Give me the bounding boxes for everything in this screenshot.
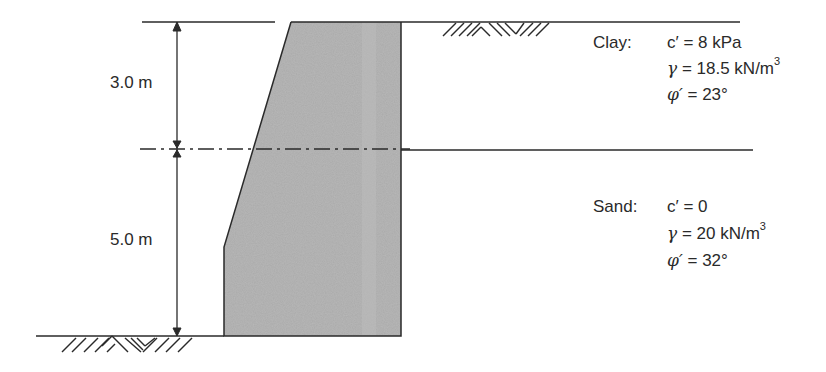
sand-label: Sand: (593, 197, 637, 217)
sand-unit-weight: γ = 20 kN/m3 (667, 223, 766, 244)
clay-cohesion: c′ = 8 kPa (667, 33, 742, 53)
retaining-wall-diagram (0, 0, 826, 372)
upper-depth-label: 3.0 m (110, 73, 153, 93)
sand-cohesion: c′ = 0 (667, 197, 708, 217)
lower-depth-label: 5.0 m (110, 230, 153, 250)
ground-hatch-icon (62, 336, 192, 352)
sand-friction-angle: φ′ = 32° (667, 250, 728, 271)
clay-friction-angle: φ′ = 23° (667, 84, 728, 105)
clay-unit-weight: γ = 18.5 kN/m3 (667, 58, 780, 79)
ground-hatch-icon (443, 23, 549, 36)
clay-label: Clay: (593, 33, 632, 53)
dimension-line (173, 22, 181, 336)
gravity-wall (224, 22, 401, 336)
